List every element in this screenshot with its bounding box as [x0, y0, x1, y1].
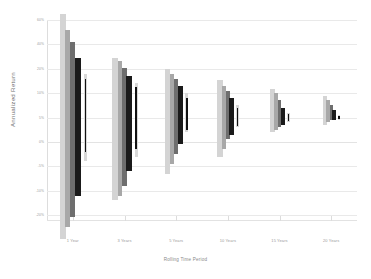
x-axis-tick — [176, 216, 177, 221]
plot-area — [47, 20, 357, 215]
x-axis-tick — [228, 216, 229, 221]
y-axis-tick-label: 0% — [39, 140, 44, 144]
x-axis-tick-label-10-years: 10 Years — [220, 238, 236, 243]
y-axis-tick-label: 5% — [39, 116, 44, 120]
y-axis-tick-label: -20% — [36, 213, 44, 217]
chart-container: Annualized Return 60%40%20%10%5%0%-5%-10… — [0, 0, 371, 279]
x-axis-tick-label-3-years: 3 Years — [117, 238, 131, 243]
x-axis-tick-label-5-years: 5 Years — [169, 238, 183, 243]
x-axis-tick — [280, 216, 281, 221]
x-axis-tick-label-15-years: 15 Years — [271, 238, 287, 243]
range-bar-series-4 — [126, 76, 132, 171]
x-axis-tick — [331, 216, 332, 221]
range-bar-series-4 — [75, 58, 81, 196]
x-axis-title: Rolling Time Period — [0, 257, 371, 262]
y-axis-tick-label: 60% — [37, 18, 44, 22]
x-axis-tick — [125, 216, 126, 221]
range-bar-inner-core — [186, 98, 188, 130]
range-bar-inner-core — [237, 108, 238, 126]
range-bar-inner-core — [338, 116, 339, 119]
range-bar-inner-core — [288, 114, 289, 122]
y-axis-tick-label: 10% — [37, 91, 44, 95]
x-axis-tick-label-20-years: 20 Years — [323, 238, 339, 243]
gridline — [47, 215, 357, 216]
range-bar-inner-core — [135, 87, 137, 149]
y-axis-tick-label: -10% — [36, 189, 44, 193]
y-axis-tick-label: 20% — [37, 67, 44, 71]
x-axis-line — [47, 220, 357, 221]
range-bar-series-4 — [229, 98, 234, 135]
range-bar-series-4 — [281, 108, 285, 125]
range-bar-inner-core — [85, 79, 87, 152]
y-axis-tick-labels: 60%40%20%10%5%0%-5%-10%-20% — [0, 20, 44, 215]
y-axis-tick-label: 40% — [37, 42, 44, 46]
x-axis-tick-label-1-year: 1 Year — [67, 238, 79, 243]
y-axis-tick-label: -5% — [38, 164, 44, 168]
range-bar-series-4 — [332, 110, 336, 120]
bar-series-layer — [47, 20, 357, 215]
range-bar-series-4 — [178, 86, 183, 145]
